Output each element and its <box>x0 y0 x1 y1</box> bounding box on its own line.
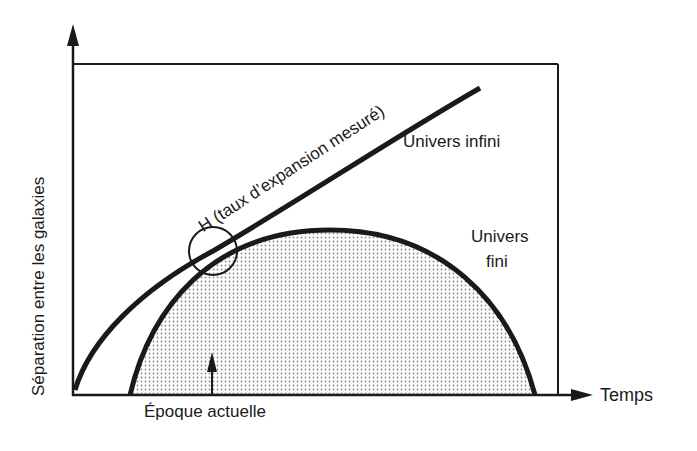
diagram-canvas <box>0 0 697 451</box>
finite-universe-label-line1: Univers <box>471 228 529 245</box>
x-axis-label: Temps <box>600 386 653 404</box>
y-axis-label: Séparation entre les galaxies <box>29 177 49 396</box>
finite-universe-label-line2: fini <box>486 253 508 270</box>
current-epoch-label: Époque actuelle <box>144 403 266 420</box>
x-axis-arrow-icon <box>571 389 593 401</box>
infinite-universe-label: Univers infini <box>403 133 500 150</box>
y-axis-arrow-icon <box>67 24 79 46</box>
y-axis <box>67 24 79 396</box>
finite-universe-region <box>130 230 535 395</box>
